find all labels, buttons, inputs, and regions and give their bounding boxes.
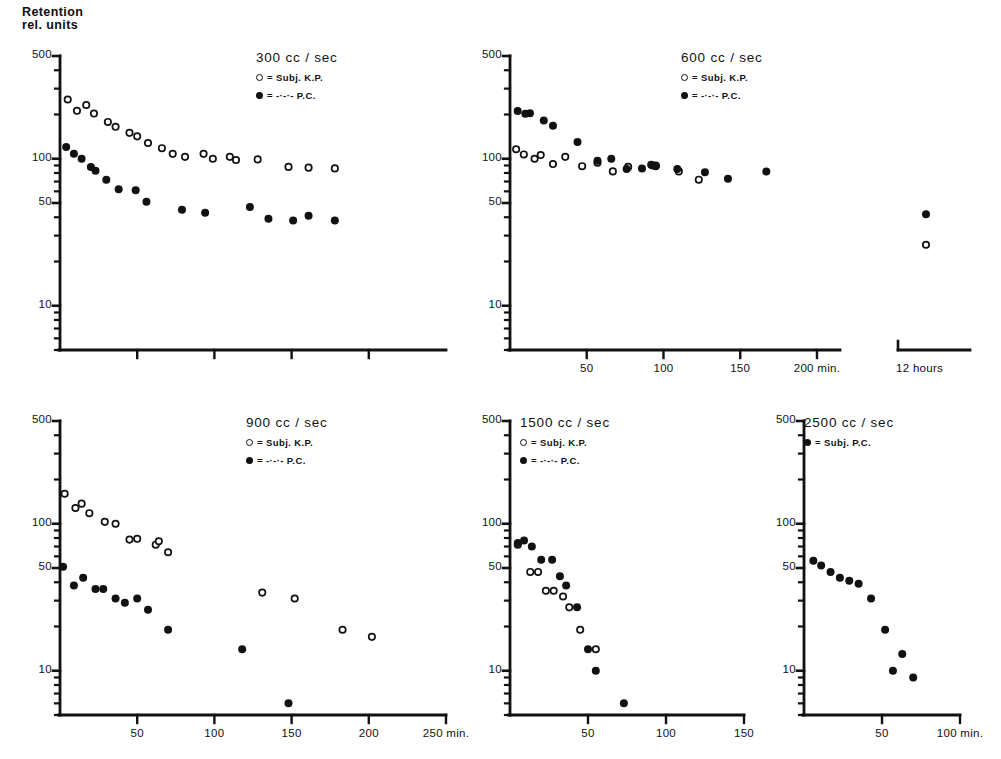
panel-300-point-filled	[331, 217, 339, 225]
panel-2500-ytick-label: 500	[756, 413, 796, 425]
panel-300-point-filled	[78, 155, 86, 163]
panel-300-point-open	[170, 151, 176, 157]
panel-2500-point-filled	[881, 626, 889, 634]
panel-1500-point-open	[593, 646, 599, 652]
panel-1500-point-open	[577, 627, 583, 633]
panel-600-ytick-label: 10	[462, 298, 502, 310]
panel-300-point-open	[134, 133, 140, 139]
panel-300-point-filled	[264, 215, 272, 223]
panel-900-point-open	[291, 595, 297, 601]
filled-circle-icon	[804, 439, 811, 446]
panel-600-point-filled	[549, 122, 557, 130]
panel-300-legend-label: = Subj. K.P.	[267, 72, 323, 83]
panel-900-point-filled	[121, 599, 129, 607]
panel-300-point-open	[233, 157, 239, 163]
panel-300-legend-item: = Subj. K.P.	[256, 72, 338, 83]
panel-300-ytick-label: 10	[12, 298, 52, 310]
panel-900-legend-label: = Subj. K.P.	[257, 437, 313, 448]
panel-2500-legend-item: = Subj. P.C.	[804, 437, 894, 448]
panel-2500-point-filled	[909, 673, 917, 681]
panel-1500-point-filled	[548, 556, 556, 564]
panel-1500-point-filled	[556, 572, 564, 580]
panel-900-point-open	[72, 505, 78, 511]
panel-1500-xtick-label: 150	[704, 727, 784, 739]
open-circle-icon	[246, 439, 253, 446]
panel-300-point-filled	[62, 143, 70, 151]
panel-300-ytick-label: 50	[12, 195, 52, 207]
panel-300-title: 300 cc / sec	[256, 50, 338, 65]
filled-circle-icon	[256, 92, 263, 99]
panel-900-legend-item: = -·-·- P.C.	[246, 455, 328, 466]
panel-1500-point-filled	[537, 556, 545, 564]
panel-1500-point-open	[560, 593, 566, 599]
panel-2500-legend-label: = Subj. P.C.	[815, 437, 871, 448]
panel-600-xtick-label: 50	[547, 362, 627, 374]
panel-300-point-filled	[305, 212, 313, 220]
panel-600-point-filled	[623, 165, 631, 173]
panel-900-point-filled	[59, 563, 67, 571]
panel-900-xtick-label: 250 min.	[406, 727, 486, 739]
panel-300-point-filled	[132, 186, 140, 194]
panel-2500-point-filled	[836, 574, 844, 582]
panel-1500-point-open	[535, 569, 541, 575]
panel-300-point-filled	[102, 176, 110, 184]
panel-1500-legend-label: = -·-·- P.C.	[531, 455, 580, 466]
panel-600-legend-label: = Subj. K.P.	[692, 72, 748, 83]
panel-600-point-open	[610, 168, 616, 174]
panel-600-legend-label: = -·-·- P.C.	[692, 90, 741, 101]
panel-2500-ytick-label: 10	[756, 663, 796, 675]
panel-1500-legend-item: = -·-·- P.C.	[520, 455, 610, 466]
panel-900-point-filled	[112, 595, 120, 603]
panel-300-point-open	[126, 130, 132, 136]
chart-panel-1500: 5001005010501001501500 cc / sec= Subj. K…	[496, 415, 744, 720]
panel-900-point-filled	[92, 585, 100, 593]
panel-900-point-filled	[79, 574, 87, 582]
panel-600-point-filled	[652, 162, 660, 170]
panel-300-point-open	[74, 108, 80, 114]
panel-300-point-open	[254, 156, 260, 162]
panel-300-point-filled	[70, 150, 78, 158]
panel-300-point-filled	[201, 209, 209, 217]
panel-900-ytick-label: 500	[12, 413, 52, 425]
panel-300-point-open	[65, 96, 71, 102]
panel-300-point-open	[305, 164, 311, 170]
y-axis-title-line2: rel. units	[22, 18, 78, 32]
filled-circle-icon	[246, 457, 253, 464]
panel-900-point-open	[112, 521, 118, 527]
panel-600-point-filled	[762, 167, 770, 175]
panel-300-point-filled	[178, 206, 186, 214]
chart-panel-2500: 500100501050100 min.2500 cc / sec= Subj.…	[790, 415, 960, 720]
panel-1500-point-filled	[592, 667, 600, 675]
panel-300-point-filled	[115, 185, 123, 193]
panel-300-legend-item: = -·-·- P.C.	[256, 90, 338, 101]
panel-300-point-filled	[142, 198, 150, 206]
panel-900-legend-item: = Subj. K.P.	[246, 437, 328, 448]
panel-300-point-open	[285, 164, 291, 170]
figure-y-axis-title: Retentionrel. units	[22, 6, 83, 32]
panel-600-point-filled	[574, 138, 582, 146]
panel-600-point-open	[579, 163, 585, 169]
panel-300-plot-area	[46, 50, 446, 355]
panel-2500-point-filled	[898, 650, 906, 658]
panel-600-legend: 600 cc / sec= Subj. K.P.= -·-·- P.C.	[681, 50, 763, 101]
panel-600-point-filled	[638, 164, 646, 172]
panel-600-legend-item: = -·-·- P.C.	[681, 90, 763, 101]
open-circle-icon	[256, 74, 263, 81]
chart-panel-900: 500100501050100150200250 min.900 cc / se…	[46, 415, 446, 720]
filled-circle-icon	[520, 457, 527, 464]
panel-2500-title: 2500 cc / sec	[804, 415, 894, 430]
panel-300-point-open	[105, 119, 111, 125]
panel-600-break-axis	[896, 50, 980, 355]
panel-1500-point-filled	[520, 536, 528, 544]
panel-900-point-open	[134, 536, 140, 542]
panel-1500-point-open	[550, 588, 556, 594]
panel-900-point-filled	[144, 606, 152, 614]
panel-600-ytick-label: 500	[462, 48, 502, 60]
panel-900-point-open	[259, 589, 265, 595]
panel-600-point-open	[513, 146, 519, 152]
panel-900-point-filled	[285, 699, 293, 707]
panel-1500-point-filled	[562, 582, 570, 590]
panel-900-point-filled	[164, 626, 172, 634]
panel-2500-point-filled	[855, 580, 863, 588]
panel-300-point-open	[200, 151, 206, 157]
